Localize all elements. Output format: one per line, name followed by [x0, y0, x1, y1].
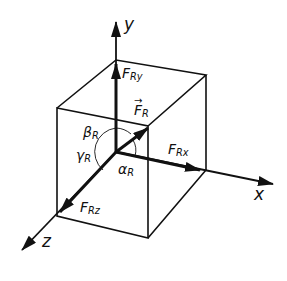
force-vectors	[60, 64, 200, 212]
force-rx-label: FRx	[168, 142, 189, 158]
cube-front-face	[57, 108, 148, 238]
z-axis-label: z	[42, 233, 51, 250]
force-resultant-vector	[116, 128, 148, 152]
force-resultant-label: → FR	[134, 103, 149, 119]
alpha-arc	[133, 140, 136, 156]
x-axis-label: x	[254, 186, 264, 203]
y-axis-label: y	[124, 16, 134, 33]
alpha-label: αR	[118, 162, 134, 178]
force-rz-label: FRz	[80, 200, 100, 216]
force-diagram: y x z FRy → FR FRx FRz βR γR αR	[0, 0, 287, 281]
vector-arrow-icon: →	[134, 96, 142, 106]
beta-label: βR	[83, 125, 99, 141]
beta-arc	[116, 128, 131, 134]
force-ry-label: FRy	[122, 66, 143, 82]
gamma-label: γR	[76, 148, 91, 164]
